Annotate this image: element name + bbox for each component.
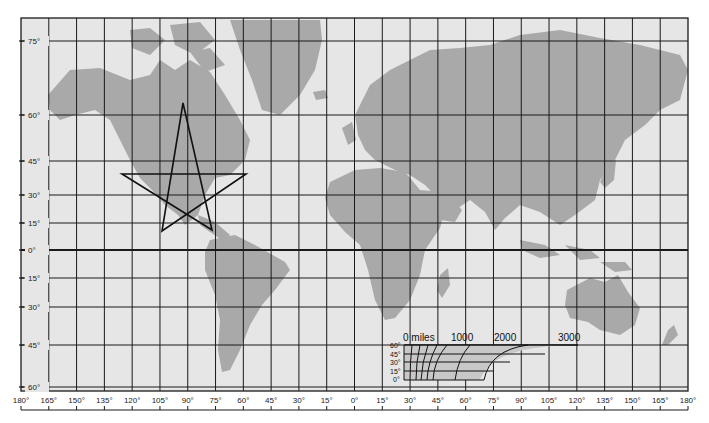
scale-lat-0: 0° bbox=[393, 376, 400, 383]
scale-lat-30: 30° bbox=[390, 359, 401, 366]
scale-lat-45: 45° bbox=[390, 351, 401, 358]
latitude-label: 15° bbox=[28, 219, 40, 228]
longitude-labels: 180°165°150°135°120°105°90°75°60°45°30°1… bbox=[13, 396, 697, 405]
scale-label-1000: 1000 bbox=[451, 332, 474, 343]
longitude-label: 45° bbox=[265, 396, 277, 405]
longitude-label: 60° bbox=[237, 396, 249, 405]
longitude-label: 105° bbox=[541, 396, 558, 405]
world-map: 75°60°45°30°15°0°15°30°45°60° 180°165°15… bbox=[0, 0, 709, 423]
longitude-label: 135° bbox=[596, 396, 613, 405]
longitude-label: 30° bbox=[404, 396, 416, 405]
longitude-label: 45° bbox=[432, 396, 444, 405]
latitude-label: 0° bbox=[28, 246, 36, 255]
longitude-label: 135° bbox=[96, 396, 113, 405]
longitude-label: 105° bbox=[152, 396, 169, 405]
longitude-label: 60° bbox=[460, 396, 472, 405]
longitude-label: 15° bbox=[376, 396, 388, 405]
longitude-label: 75° bbox=[487, 396, 499, 405]
longitude-label: 90° bbox=[182, 396, 194, 405]
latitude-label: 45° bbox=[28, 157, 40, 166]
latitude-label: 15° bbox=[28, 274, 40, 283]
longitude-label: 30° bbox=[293, 396, 305, 405]
longitude-label: 150° bbox=[624, 396, 641, 405]
longitude-label: 75° bbox=[209, 396, 221, 405]
longitude-label: 90° bbox=[515, 396, 527, 405]
longitude-label: 165° bbox=[652, 396, 669, 405]
latitude-label: 30° bbox=[28, 303, 40, 312]
scale-label-2000: 2000 bbox=[494, 332, 517, 343]
scale-lat-15: 15° bbox=[390, 368, 401, 375]
scale-label-0: 0 miles bbox=[403, 332, 435, 343]
longitude-label: 120° bbox=[124, 396, 141, 405]
latitude-label: 75° bbox=[28, 37, 40, 46]
longitude-label: 120° bbox=[569, 396, 586, 405]
longitude-label: 15° bbox=[321, 396, 333, 405]
longitude-label: 180° bbox=[680, 396, 697, 405]
scale-lat-60: 60° bbox=[390, 342, 401, 349]
latitude-label: 60° bbox=[28, 111, 40, 120]
scale-label-3000: 3000 bbox=[558, 332, 581, 343]
latitude-label: 30° bbox=[28, 191, 40, 200]
latitude-label: 45° bbox=[28, 341, 40, 350]
longitude-label: 0° bbox=[351, 396, 359, 405]
longitude-label: 150° bbox=[68, 396, 85, 405]
longitude-label: 165° bbox=[41, 396, 58, 405]
latitude-label: 60° bbox=[28, 383, 40, 392]
longitude-label: 180° bbox=[13, 396, 30, 405]
